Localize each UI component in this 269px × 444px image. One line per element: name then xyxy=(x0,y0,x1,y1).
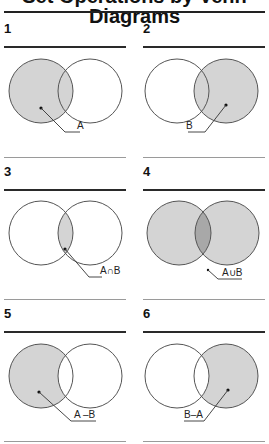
label-a: A xyxy=(77,120,84,131)
panel-5: 5 A –B xyxy=(4,307,126,444)
panel-footer-rule xyxy=(4,441,126,442)
venn-diagram-intersection: A∩B xyxy=(4,165,126,305)
panel-6: 6 B–A xyxy=(143,307,265,444)
label-b: B xyxy=(186,120,193,131)
venn-diagram-b-minus-a: B–A xyxy=(143,307,265,444)
panel-3: 3 A∩B xyxy=(4,165,126,305)
panel-1: 1 A xyxy=(4,22,126,162)
panel-footer-rule xyxy=(143,157,265,158)
venn-diagram-a-minus-b: A –B xyxy=(4,307,126,444)
title-rule xyxy=(4,11,265,13)
panel-footer-rule xyxy=(143,299,265,300)
panel-footer-rule xyxy=(143,441,265,442)
panel-2: 2 B xyxy=(143,22,265,162)
panel-footer-rule xyxy=(4,299,126,300)
venn-diagram-b: B xyxy=(143,22,265,162)
panel-footer-rule xyxy=(4,157,126,158)
label-union: A∪B xyxy=(222,267,243,278)
venn-diagram-union: A∪B xyxy=(143,165,265,305)
panel-4: 4 A∪B xyxy=(143,165,265,305)
label-a-minus-b: A –B xyxy=(74,409,95,420)
label-b-minus-a: B–A xyxy=(184,409,203,420)
venn-diagram-a: A xyxy=(4,22,126,162)
label-intersection: A∩B xyxy=(100,265,121,276)
